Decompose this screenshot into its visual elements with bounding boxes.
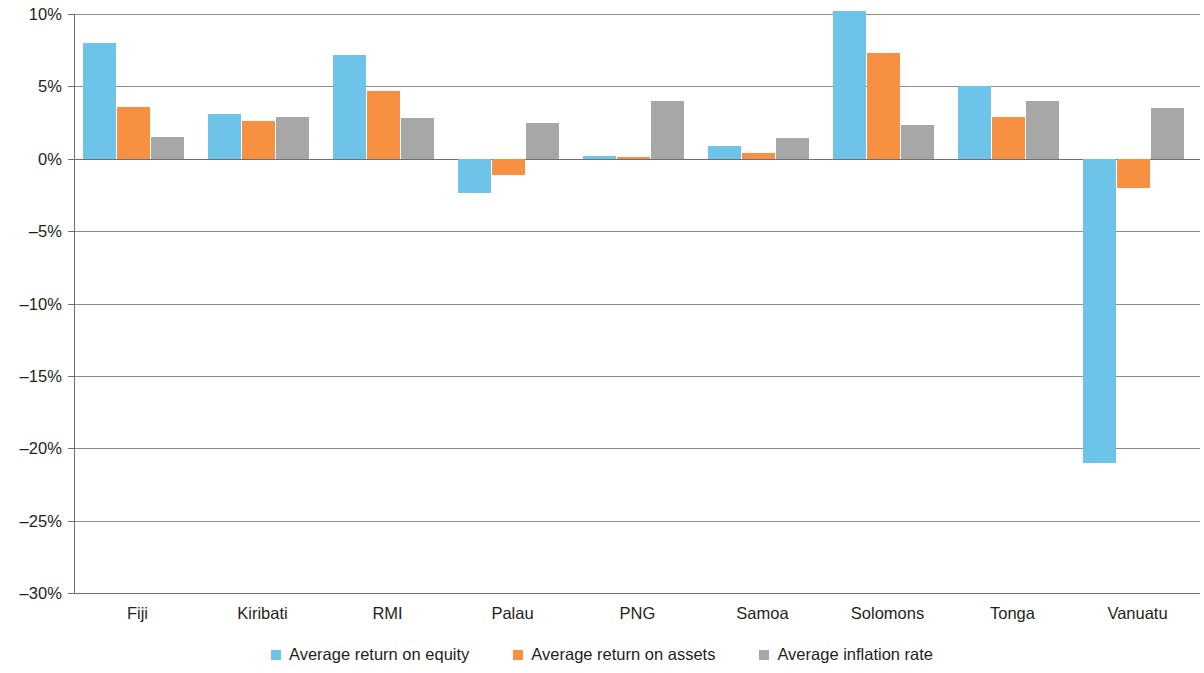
bar-group: [575, 14, 700, 593]
bar-group: [825, 14, 950, 593]
bar-group: [1075, 14, 1200, 593]
bar: [333, 55, 366, 159]
x-axis-tick-label: Fiji: [75, 604, 200, 623]
x-axis-tick-label: Vanuatu: [1075, 604, 1200, 623]
bar: [742, 153, 775, 159]
y-axis-tick: [68, 304, 75, 305]
bar: [708, 146, 741, 159]
x-axis-tick-label: RMI: [325, 604, 450, 623]
bar: [458, 159, 491, 194]
bar-group: [450, 14, 575, 593]
legend-swatch-icon: [513, 650, 523, 660]
legend-swatch-icon: [271, 650, 281, 660]
y-axis-tick: [68, 86, 75, 87]
bar-group: [200, 14, 325, 593]
x-axis-tick-label: PNG: [575, 604, 700, 623]
legend-swatch-icon: [759, 650, 769, 660]
bar: [83, 43, 116, 159]
bar: [583, 156, 616, 159]
y-axis-tick-label: –15%: [19, 366, 62, 385]
bar: [651, 101, 684, 159]
bar-group: [75, 14, 200, 593]
bar: [776, 138, 809, 158]
bar: [1117, 159, 1150, 188]
bar: [367, 91, 400, 159]
y-axis-tick: [68, 231, 75, 232]
legend-item[interactable]: Average inflation rate: [759, 645, 933, 664]
y-axis-tick: [68, 159, 75, 160]
x-axis-tick-label: Solomons: [825, 604, 950, 623]
chart-legend: Average return on equityAverage return o…: [0, 645, 1204, 664]
legend-item[interactable]: Average return on assets: [513, 645, 715, 664]
x-axis-tick-label: Samoa: [700, 604, 825, 623]
y-axis-tick-label: –25%: [19, 511, 62, 530]
bar-chart: 10%5%0%–5%–10%–15%–20%–25%–30% FijiKirib…: [0, 0, 1204, 673]
y-axis-tick: [68, 14, 75, 15]
bar: [958, 86, 991, 158]
y-axis-tick-label: –30%: [19, 584, 62, 603]
bar: [901, 125, 934, 158]
bar: [1026, 101, 1059, 159]
y-axis-labels: 10%5%0%–5%–10%–15%–20%–25%–30%: [0, 0, 62, 673]
y-axis-tick: [68, 376, 75, 377]
y-axis-tick: [68, 593, 75, 594]
legend-label: Average return on equity: [289, 645, 469, 664]
bar: [242, 121, 275, 159]
x-axis-tick-label: Kiribati: [200, 604, 325, 623]
y-axis-tick: [68, 521, 75, 522]
bar: [526, 123, 559, 159]
y-axis-tick-label: –10%: [19, 294, 62, 313]
y-axis-tick-label: 5%: [38, 77, 62, 96]
bar: [276, 117, 309, 159]
bar: [1151, 108, 1184, 159]
bar: [1083, 159, 1116, 463]
y-axis-tick-label: 10%: [29, 5, 62, 24]
y-axis-tick: [68, 448, 75, 449]
gridline: [75, 593, 1200, 594]
bar-groups: [75, 14, 1200, 593]
bar: [208, 114, 241, 159]
legend-label: Average return on assets: [531, 645, 715, 664]
y-axis-tick-label: –20%: [19, 439, 62, 458]
y-axis-tick-label: –5%: [29, 222, 62, 241]
plot-area: [75, 14, 1200, 593]
bar: [992, 117, 1025, 159]
bar: [492, 159, 525, 175]
bar: [401, 118, 434, 159]
x-axis-tick-label: Palau: [450, 604, 575, 623]
bar: [617, 157, 650, 159]
bar-group: [325, 14, 450, 593]
bar: [833, 11, 866, 159]
bar: [117, 107, 150, 159]
bar: [867, 53, 900, 159]
y-axis-tick-label: 0%: [38, 149, 62, 168]
legend-label: Average inflation rate: [777, 645, 933, 664]
bar: [151, 137, 184, 159]
bar-group: [950, 14, 1075, 593]
x-axis-tick-label: Tonga: [950, 604, 1075, 623]
bar-group: [700, 14, 825, 593]
legend-item[interactable]: Average return on equity: [271, 645, 469, 664]
